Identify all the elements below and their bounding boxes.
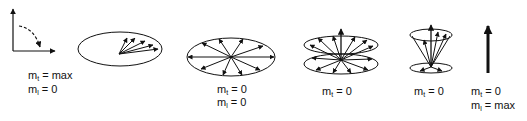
magnetization-diagram (0, 0, 527, 121)
panel-axes-label-ml: ml = 0 (28, 83, 57, 96)
panel-longitudinal-label-ml: ml = max (471, 99, 515, 112)
coordinate-axes-icon (13, 9, 55, 51)
panel-axes-label-mt: mt = max (28, 69, 72, 82)
panel-dephased-label-mt: mt = 0 (217, 83, 247, 96)
cone-vectors (410, 25, 452, 73)
double-cone-vectors (304, 29, 378, 74)
panel-cone-label-mt: mt = 0 (414, 85, 444, 98)
panel-dephased-label-ml: ml = 0 (217, 96, 246, 109)
panel-longitudinal-label-mt: mt = 0 (471, 85, 501, 98)
radial-vectors-ellipse (187, 38, 275, 76)
fan-vectors-ellipse (78, 32, 162, 66)
panel-double-cone-label-mt: mt = 0 (322, 85, 352, 98)
